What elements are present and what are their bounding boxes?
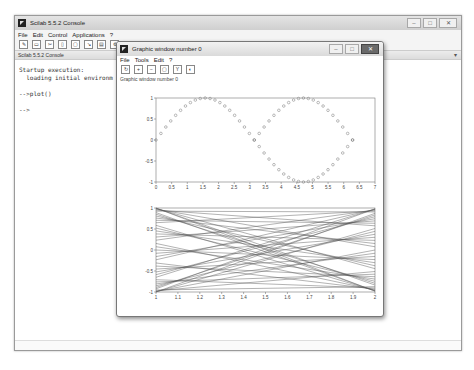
console-tab-label: Scilab 5.5.2 Console (18, 52, 64, 58)
zoom-in-icon[interactable]: + (134, 65, 143, 74)
chart-top: 00.511.522.533.544.555.566.57-1-0.500.51 (145, 96, 377, 191)
svg-text:1.2: 1.2 (197, 295, 204, 300)
tab-menu-arrow-icon[interactable]: ▾ (454, 51, 457, 58)
svg-text:1.1: 1.1 (175, 295, 182, 300)
svg-text:1: 1 (186, 185, 189, 190)
svg-text:0: 0 (150, 138, 153, 143)
svg-text:1.9: 1.9 (350, 295, 357, 300)
svg-text:1.5: 1.5 (200, 185, 207, 190)
minimize-button[interactable]: – (329, 44, 343, 54)
minimize-button[interactable]: – (407, 18, 421, 28)
svg-text:6: 6 (342, 185, 345, 190)
menu-edit[interactable]: Edit (154, 57, 164, 63)
copy-icon[interactable]: ▯ (58, 40, 67, 49)
svg-text:2: 2 (374, 295, 377, 300)
menu-help[interactable]: ? (169, 57, 172, 63)
menu-applications[interactable]: Applications (72, 32, 104, 38)
svg-text:1: 1 (150, 206, 153, 211)
svg-text:0: 0 (155, 185, 158, 190)
console-statusbar (15, 340, 461, 350)
open-file-icon[interactable]: ▭ (32, 40, 41, 49)
chart-bottom: 11.11.21.31.41.51.61.71.81.92-1-0.500.51 (145, 206, 377, 301)
graphic-menubar: File Tools Edit ? (117, 56, 383, 64)
zoom-out-icon[interactable]: − (147, 65, 156, 74)
menu-file[interactable]: File (18, 32, 28, 38)
graphic-title: Graphic window number 0 (132, 46, 202, 52)
svg-text:1.6: 1.6 (284, 295, 291, 300)
svg-text:4.5: 4.5 (294, 185, 301, 190)
close-button[interactable]: ✕ (439, 18, 457, 28)
console-titlebar[interactable]: Scilab 5.5.2 Console – □ ✕ (15, 16, 461, 30)
svg-text:0.5: 0.5 (147, 227, 154, 232)
svg-text:-1: -1 (149, 180, 153, 185)
svg-text:6.5: 6.5 (356, 185, 363, 190)
svg-text:1.7: 1.7 (306, 295, 313, 300)
new-script-icon[interactable]: ✎ (19, 40, 28, 49)
reset-view-icon[interactable]: ◐ (186, 65, 195, 74)
svg-text:7: 7 (374, 185, 377, 190)
graphic-window-label: Graphic window number 0 (117, 75, 383, 83)
svg-text:0.5: 0.5 (169, 185, 176, 190)
scilab-logo-icon (18, 19, 26, 27)
svg-text:-0.5: -0.5 (145, 269, 153, 274)
paste-icon[interactable]: ▢ (71, 40, 80, 49)
svg-text:1.8: 1.8 (328, 295, 335, 300)
graphic-window: Graphic window number 0 – □ ✕ File Tools… (116, 41, 384, 317)
svg-text:1: 1 (150, 96, 153, 101)
close-button[interactable]: ✕ (361, 44, 379, 54)
menu-tools[interactable]: Tools (135, 57, 149, 63)
svg-text:1: 1 (155, 295, 158, 300)
graphic-titlebar[interactable]: Graphic window number 0 – □ ✕ (117, 42, 383, 56)
menu-edit[interactable]: Edit (33, 32, 43, 38)
menu-help[interactable]: ? (110, 32, 113, 38)
svg-text:0.5: 0.5 (147, 117, 154, 122)
maximize-button[interactable]: □ (423, 18, 437, 28)
menu-file[interactable]: File (120, 57, 130, 63)
maximize-button[interactable]: □ (345, 44, 359, 54)
svg-text:-1: -1 (149, 290, 153, 295)
plot-canvas[interactable]: 00.511.522.533.544.555.566.57-1-0.500.51… (117, 84, 383, 314)
svg-text:5.5: 5.5 (325, 185, 332, 190)
svg-text:5: 5 (311, 185, 314, 190)
svg-text:-0.5: -0.5 (145, 159, 153, 164)
svg-text:1.5: 1.5 (262, 295, 269, 300)
console-title: Scilab 5.5.2 Console (30, 20, 85, 26)
scilab-logo-icon (120, 45, 128, 53)
svg-text:1.4: 1.4 (240, 295, 247, 300)
menu-control[interactable]: Control (48, 32, 67, 38)
svg-text:0: 0 (150, 248, 153, 253)
zoom-box-icon[interactable]: ▢ (160, 65, 169, 74)
svg-text:4: 4 (280, 185, 283, 190)
svg-text:2.5: 2.5 (231, 185, 238, 190)
console-menubar: File Edit Control Applications ? (15, 30, 461, 39)
print-icon[interactable]: ▤ (97, 40, 106, 49)
svg-text:3.5: 3.5 (262, 185, 269, 190)
rotate-icon[interactable]: ↻ (121, 65, 130, 74)
svg-text:3: 3 (249, 185, 252, 190)
change-dir-icon[interactable]: ↘ (84, 40, 93, 49)
datatip-icon[interactable]: Y (173, 65, 182, 74)
svg-text:1.3: 1.3 (219, 295, 226, 300)
svg-text:2: 2 (217, 185, 220, 190)
cut-icon[interactable]: ✂ (45, 40, 54, 49)
graphic-toolbar: ↻ + − ▢ Y ◐ (117, 64, 383, 75)
